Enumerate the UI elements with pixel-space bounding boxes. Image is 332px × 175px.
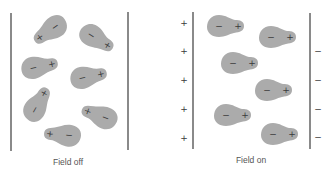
dipole-molecule: −+ — [259, 26, 296, 48]
plate-charge-minus: − — [314, 75, 322, 85]
plate-charge-minus: − — [314, 46, 322, 56]
plate-charge-plus: + — [180, 104, 188, 114]
dipole-molecule: −+ — [19, 52, 60, 81]
dipole-molecule: −+ — [221, 52, 258, 74]
caption-field-off: Field off — [53, 157, 83, 167]
dipole-molecule: −+ — [255, 79, 292, 101]
caption-field-on: Field on — [236, 155, 266, 165]
minus-sign: − — [269, 129, 277, 139]
dipole-molecule: −+ — [75, 20, 118, 58]
plate-charge-plus: + — [180, 75, 188, 85]
dipole-molecule: −+ — [78, 99, 120, 132]
plate-charge-minus: − — [314, 132, 322, 142]
plus-sign: + — [248, 58, 256, 68]
dipole-molecule: −+ — [214, 104, 251, 126]
plus-sign: + — [288, 129, 296, 139]
dipole-molecule: −+ — [68, 62, 109, 91]
plus-sign: + — [46, 129, 54, 140]
molecule-body — [75, 20, 118, 58]
plus-sign: + — [234, 21, 242, 31]
plate-charge-plus: + — [180, 133, 188, 143]
plus-sign: + — [286, 32, 294, 42]
plate-charge-plus: + — [180, 18, 188, 28]
plus-sign: + — [282, 85, 290, 95]
plate-charge-plus: + — [180, 46, 188, 56]
panel-field-off: −+−+−+−+−+−+−+ — [11, 11, 128, 151]
dipole-molecule: −+ — [29, 11, 72, 50]
minus-sign: − — [267, 32, 275, 42]
dipole-molecule: −+ — [43, 123, 82, 148]
molecule-body — [19, 83, 57, 126]
minus-sign: − — [65, 130, 73, 141]
minus-sign: − — [215, 21, 223, 31]
dipole-alignment-diagram: −+−+−+−+−+−+−+ +++++−−−−−+−+−+−+−+−+ — [0, 0, 332, 175]
minus-sign: − — [263, 85, 271, 95]
plate-charge-minus: − — [314, 104, 322, 114]
plus-sign: + — [241, 110, 249, 120]
dipole-molecule: −+ — [261, 123, 298, 145]
minus-sign: − — [222, 110, 230, 120]
dipole-molecule: −+ — [19, 83, 57, 126]
molecule-body — [29, 11, 72, 50]
panel-field-on: +++++−−−−−+−+−+−+−+−+ — [180, 12, 322, 149]
minus-sign: − — [229, 58, 237, 68]
dipole-molecule: −+ — [207, 15, 244, 37]
